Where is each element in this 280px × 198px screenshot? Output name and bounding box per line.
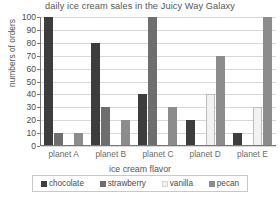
legend-swatch-icon: [209, 181, 215, 187]
bar: [206, 94, 215, 146]
plot-area: 0102030405060708090100: [40, 17, 276, 146]
x-tick-label: planet D: [182, 149, 229, 159]
y-tick-mark: [37, 146, 40, 147]
legend-title: ice cream flavor: [0, 164, 280, 174]
bar-group: [229, 17, 276, 146]
bar: [138, 94, 147, 146]
bar-chart-figure: daily ice cream sales in the Juicy Way G…: [0, 0, 280, 198]
bar-group: [40, 17, 87, 146]
bar-group: [182, 17, 229, 146]
legend-swatch-icon: [162, 181, 168, 187]
y-tick-label: 60: [26, 64, 36, 74]
bar-group: [87, 17, 134, 146]
y-tick-label: 80: [26, 38, 36, 48]
bar: [216, 56, 225, 146]
bar: [263, 17, 272, 146]
y-axis-line: [40, 17, 41, 146]
legend-label: chocolate: [49, 179, 84, 188]
bar: [91, 43, 100, 146]
legend-item[interactable]: vanilla: [162, 179, 193, 188]
legend-label: strawberry: [108, 179, 146, 188]
y-axis-label: numbers of orders: [7, 10, 17, 96]
x-tick-label: planet A: [40, 149, 87, 159]
legend-item[interactable]: pecan: [209, 179, 239, 188]
y-tick-label: 0: [31, 141, 36, 151]
legend-label: vanilla: [170, 179, 193, 188]
gridline: [41, 146, 276, 147]
bar: [148, 17, 157, 146]
y-tick-label: 90: [26, 25, 36, 35]
bar: [253, 107, 262, 146]
legend-swatch-icon: [41, 181, 47, 187]
legend: chocolatestrawberryvanillapecan: [32, 175, 248, 192]
y-tick-label: 40: [26, 89, 36, 99]
x-axis-line: [40, 145, 276, 146]
legend-item[interactable]: chocolate: [41, 179, 84, 188]
legend-item[interactable]: strawberry: [100, 179, 146, 188]
y-tick-label: 100: [22, 12, 36, 22]
x-tick-label: planet B: [87, 149, 134, 159]
legend-swatch-icon: [100, 181, 106, 187]
bar-group: [134, 17, 181, 146]
bar-series-container: [40, 17, 276, 146]
bar: [101, 107, 110, 146]
y-tick-label: 20: [26, 115, 36, 125]
y-tick-label: 50: [26, 77, 36, 87]
chart-title: daily ice cream sales in the Juicy Way G…: [0, 1, 280, 11]
y-tick-label: 10: [26, 128, 36, 138]
y-tick-label: 70: [26, 51, 36, 61]
legend-label: pecan: [217, 179, 239, 188]
x-tick-label: planet C: [134, 149, 181, 159]
bar: [186, 120, 195, 146]
y-tick-label: 30: [26, 102, 36, 112]
x-tick-label: planet E: [229, 149, 276, 159]
bar: [44, 17, 53, 146]
bar: [168, 107, 177, 146]
bar: [121, 120, 130, 146]
